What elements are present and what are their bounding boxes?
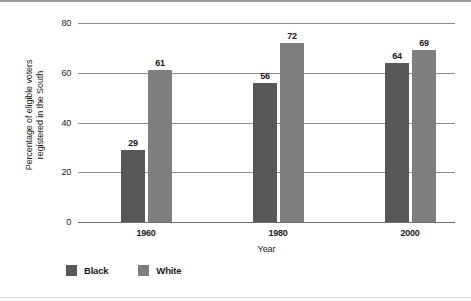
bar-value-1960-black: 29 bbox=[128, 138, 138, 148]
bar-2000-white[interactable]: 69 bbox=[412, 50, 436, 222]
bar-1960-white[interactable]: 61 bbox=[148, 70, 172, 222]
bar-value-2000-white: 69 bbox=[419, 38, 429, 48]
legend-swatch-white-icon bbox=[138, 265, 149, 276]
bar-1980-black[interactable]: 56 bbox=[253, 83, 277, 222]
bar-value-1980-white: 72 bbox=[287, 31, 297, 41]
legend-item-white[interactable]: White bbox=[138, 265, 181, 276]
x-tick-label-2000: 2000 bbox=[400, 228, 419, 238]
bar-value-1980-black: 56 bbox=[260, 71, 270, 81]
y-tick-label-40: 40 bbox=[61, 118, 71, 128]
x-axis-title: Year bbox=[78, 244, 455, 254]
gridline-0: 0 bbox=[78, 222, 455, 223]
figure-bottom-rule bbox=[0, 297, 471, 298]
x-tick-label-1960: 1960 bbox=[136, 228, 155, 238]
y-axis-title-line-1: Percentage of eligible voters bbox=[24, 50, 35, 180]
legend-label-black: Black bbox=[84, 265, 108, 276]
plot-area: 80 60 40 20 0 29 61 1960 bbox=[78, 23, 455, 222]
bar-groups: 29 61 1960 56 72 1980 64 bbox=[78, 23, 455, 222]
y-tick-label-60: 60 bbox=[61, 68, 71, 78]
y-tick-label-20: 20 bbox=[61, 167, 71, 177]
y-axis-title: Percentage of eligible voters registered… bbox=[24, 50, 46, 180]
y-tick-label-0: 0 bbox=[66, 217, 71, 227]
legend-item-black[interactable]: Black bbox=[66, 265, 108, 276]
chart-legend: Black White bbox=[66, 265, 181, 276]
bar-1960-black[interactable]: 29 bbox=[121, 150, 145, 222]
bar-value-2000-black: 64 bbox=[392, 51, 402, 61]
chart-figure: Percentage of eligible voters registered… bbox=[0, 0, 471, 301]
bar-1980-white[interactable]: 72 bbox=[280, 43, 304, 222]
y-tick-label-80: 80 bbox=[61, 18, 71, 28]
legend-swatch-black-icon bbox=[66, 265, 77, 276]
figure-top-rule bbox=[0, 0, 471, 2]
y-axis-title-line-2: registered in the South bbox=[35, 50, 46, 180]
bar-value-1960-white: 61 bbox=[155, 58, 165, 68]
bar-2000-black[interactable]: 64 bbox=[385, 63, 409, 222]
legend-label-white: White bbox=[156, 265, 181, 276]
x-tick-label-1980: 1980 bbox=[268, 228, 287, 238]
